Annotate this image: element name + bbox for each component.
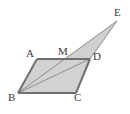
vertex-label-D: D xyxy=(93,51,101,62)
geometry-figure: A B C D M E xyxy=(0,0,130,114)
geometry-canvas xyxy=(0,0,130,114)
vertex-label-A: A xyxy=(26,48,34,59)
vertex-label-C: C xyxy=(74,92,81,103)
vertex-label-M: M xyxy=(58,46,68,57)
vertex-label-B: B xyxy=(8,92,15,103)
vertex-label-E: E xyxy=(114,7,121,18)
